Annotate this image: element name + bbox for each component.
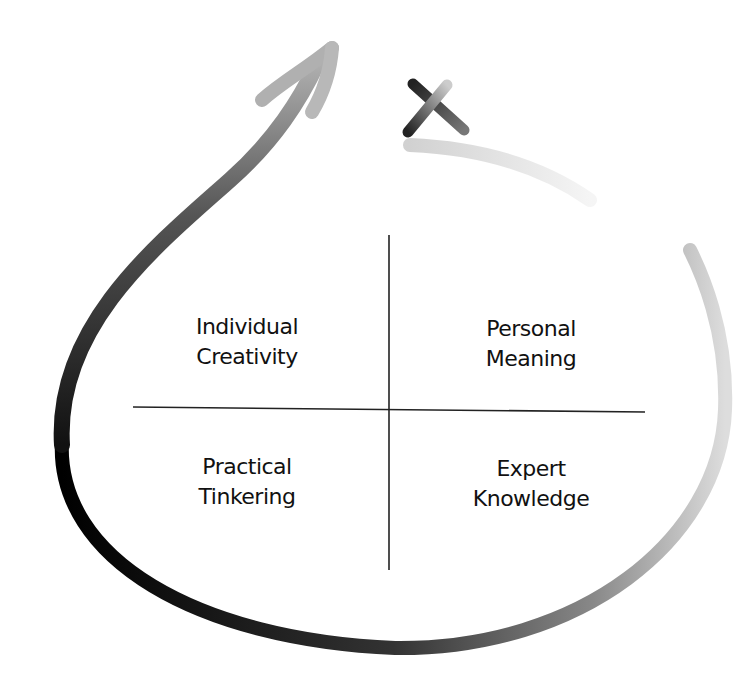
quadrant-line: Creativity xyxy=(196,342,298,372)
quadrant-line: Knowledge xyxy=(473,484,589,514)
quadrant-line: Practical xyxy=(199,452,296,482)
quadrant-line: Individual xyxy=(196,312,298,342)
quadrant-personal-meaning: Personal Meaning xyxy=(486,314,576,374)
quadrant-individual-creativity: Individual Creativity xyxy=(196,312,298,372)
quadrant-expert-knowledge: Expert Knowledge xyxy=(473,454,589,514)
quadrant-line: Tinkering xyxy=(199,482,296,512)
x-mark-icon xyxy=(408,84,464,132)
quadrant-practical-tinkering: Practical Tinkering xyxy=(199,452,296,512)
quadrant-line: Expert xyxy=(473,454,589,484)
quadrant-line: Personal xyxy=(486,314,576,344)
loop-arrow-icon xyxy=(62,48,726,648)
quadrant-line: Meaning xyxy=(486,344,576,374)
diagram-canvas xyxy=(0,0,755,691)
